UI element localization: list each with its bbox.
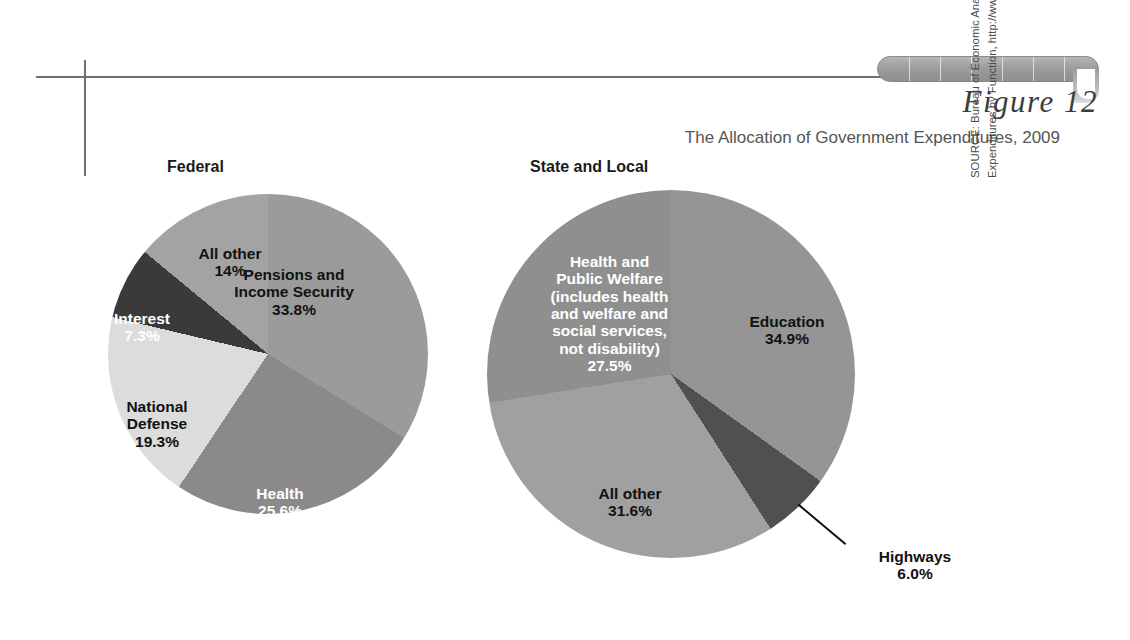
header-horizontal-rule	[36, 76, 954, 78]
slice-label-all-other-state: All other 31.6%	[565, 485, 695, 520]
slice-label-interest: Interest 7.3%	[92, 310, 192, 345]
figure-subtitle: The Allocation of Government Expenditure…	[685, 128, 1060, 148]
highways-leader-line	[798, 504, 847, 545]
slice-label-health: Health 25.6%	[225, 485, 335, 520]
slice-label-health-and-public-welfare: Health and Public Welfare (includes heal…	[518, 253, 701, 375]
header-vertical-rule	[84, 60, 86, 176]
chart-title-state-and-local: State and Local	[530, 158, 648, 176]
source-note: SOURCE: Bureau of Economic Analysis, NIP…	[967, 0, 1001, 178]
slice-label-all-other-federal: All other 14%	[175, 245, 285, 280]
slice-label-highways: Highways 6.0%	[855, 548, 975, 583]
figure-page: Figure 12 The Allocation of Government E…	[0, 0, 1130, 640]
slice-label-national-defense: National Defense 19.3%	[93, 398, 221, 450]
chart-title-federal: Federal	[167, 158, 224, 176]
pie-chart-federal	[108, 194, 428, 514]
slice-label-education: Education 34.9%	[722, 313, 852, 348]
